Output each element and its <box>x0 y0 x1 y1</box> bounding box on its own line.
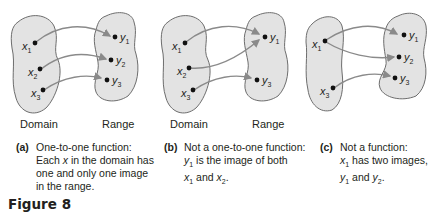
figure-title: Figure 8 <box>8 196 71 212</box>
range-blob <box>244 13 288 101</box>
caption-line: x1 and x2. <box>184 171 314 188</box>
caption-tag: (b) <box>164 141 177 154</box>
mapping-diagram-a: x1 x2 x3 y1 y2 y3 <box>0 0 150 130</box>
domain-label: Domain <box>20 118 58 130</box>
range-label: Range <box>102 118 134 130</box>
caption-line: Not a function: <box>340 141 448 154</box>
range-blob <box>379 13 426 99</box>
panel-a: x1 x2 x3 y1 y2 y3 Domain Range (a) One-t… <box>0 0 150 200</box>
caption-line: in the range. <box>36 180 166 193</box>
panel-b: x1 x2 x3 y1 y3 Domain Range (b) Not a on… <box>150 0 300 200</box>
mapping-diagram-c: x1 x3 y1 y2 y3 <box>298 0 448 130</box>
domain-label: Domain <box>170 118 208 130</box>
caption-tag: (a) <box>16 141 29 154</box>
caption-line: one and only one image <box>36 167 166 180</box>
mapping-diagram-b: x1 x2 x3 y1 y3 <box>150 0 300 130</box>
caption-line: One-to-one function: <box>36 141 166 154</box>
panel-c: x1 x3 y1 y2 y3 (c) Not a function: x1 ha… <box>298 0 448 200</box>
caption-line: y1 is the image of both <box>184 154 314 171</box>
caption-line: y1 and y2. <box>340 171 448 188</box>
caption-line: x1 has two images, <box>340 154 448 171</box>
caption-line: Not a one-to-one function: <box>184 141 314 154</box>
caption-line: Each x in the domain has <box>36 154 166 167</box>
range-label: Range <box>252 118 284 130</box>
caption-tag: (c) <box>320 141 333 154</box>
